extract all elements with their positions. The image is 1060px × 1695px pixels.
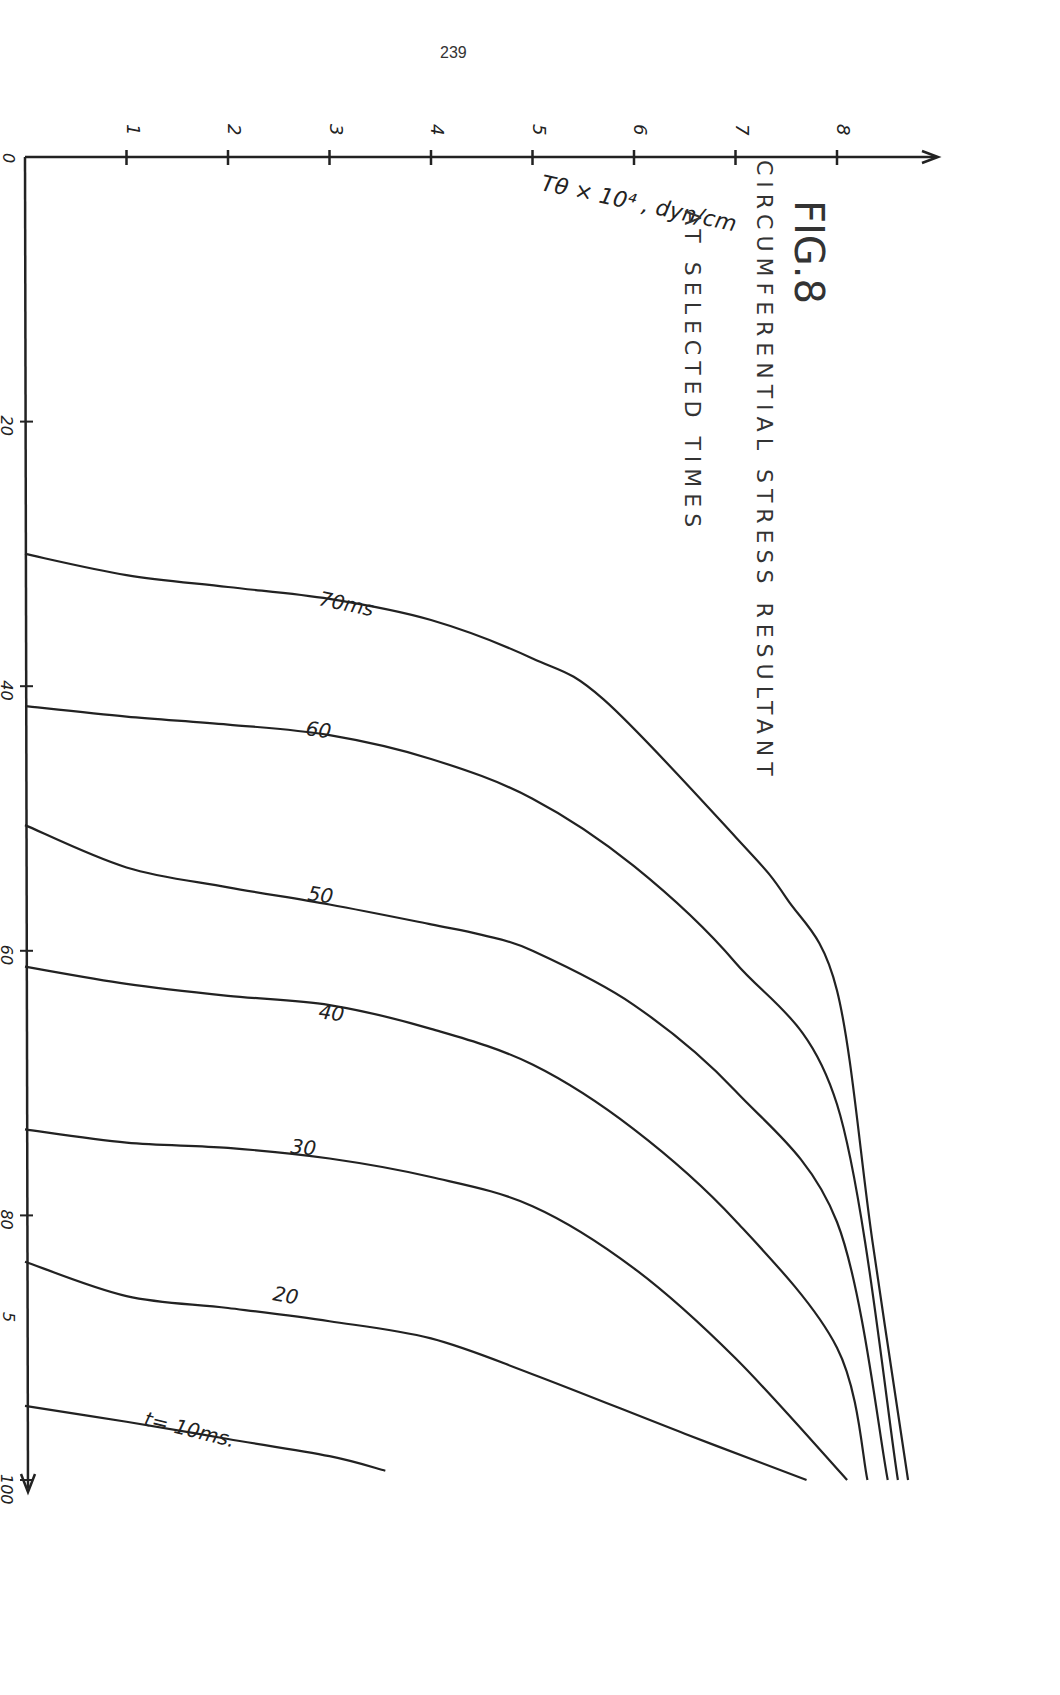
stress-axis-label: Tθ × 10⁴ , dyn/cm [539,170,739,236]
stress-tick-label: 4 [427,124,448,135]
position-tick-label: 20 [0,416,16,436]
stress-tick-label: 5 [529,124,550,135]
stress-chart: 12345678 20406080100 0 5 Tθ × 10⁴ , dyn/… [0,0,1060,1695]
stress-tick-label: 2 [224,124,245,135]
stress-tick-label: 7 [732,124,753,136]
stress-tick-label: 1 [123,124,144,135]
curve-label-40: 40 [317,999,346,1026]
curve-label-50: 50 [306,881,335,908]
figure-title-line2: AT SELECTED TIMES [680,210,705,533]
origin-label: 0 [0,153,18,163]
curve-label-20: 20 [271,1281,300,1309]
stress-tick-label: 6 [630,124,651,135]
position-tick-label: 100 [0,1474,16,1505]
curve-label-70: 70ms [317,586,376,621]
stress-tick-label: 3 [326,124,347,135]
curve-60 [25,706,898,1480]
curve-label-10: t= 10ms. [142,1407,238,1453]
curve-40 [25,967,867,1480]
figure-title-line1: CIRCUMFERENTIAL STRESS RESULTANT [752,160,777,782]
curve-20 [25,1262,807,1480]
curve-label-30: 30 [289,1134,317,1161]
position-tick-label: 60 [0,945,16,965]
curve-label-60: 60 [304,716,333,743]
position-axis [25,157,28,1488]
stress-tick-label: 8 [833,124,854,135]
position-extra-label: 5 [0,1312,18,1322]
position-tick-label: 80 [0,1209,16,1229]
figure-label: FIG.8 [786,200,832,304]
position-tick-label: 40 [0,680,16,700]
stress-ticks: 12345678 [123,124,855,165]
